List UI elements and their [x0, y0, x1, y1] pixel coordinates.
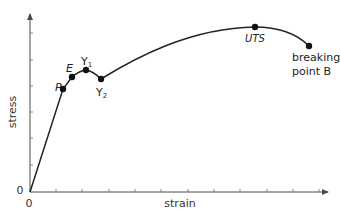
label-P: P	[55, 81, 62, 94]
x-axis	[30, 189, 328, 192]
x-origin-label: 0	[26, 197, 33, 210]
label-breaking-line2: point B	[292, 65, 331, 78]
label-E: E	[66, 62, 73, 75]
label-Y2: Y2	[95, 86, 107, 100]
y-origin-label: 0	[17, 184, 24, 197]
stress-strain-curve	[30, 27, 309, 192]
label-UTS: UTS	[245, 33, 265, 44]
point-B-marker	[306, 43, 312, 49]
point-Y2-marker	[98, 76, 104, 82]
y-axis-label: stress	[6, 95, 19, 128]
point-UTS-marker	[252, 24, 258, 30]
label-breaking-line1: breaking	[292, 51, 340, 64]
y-axis	[30, 14, 33, 192]
label-Y1: Y1	[80, 55, 92, 69]
x-axis-label: strain	[164, 197, 195, 210]
stress-strain-diagram: stress strain 0 0 P E Y1 Y2 UTS breaking…	[0, 0, 340, 218]
